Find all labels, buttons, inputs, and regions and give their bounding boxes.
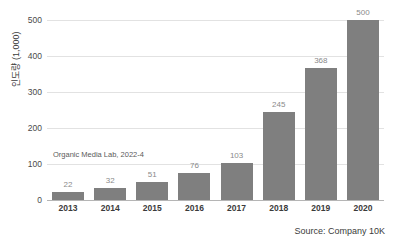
bar-slot-2013: 22 [47, 20, 89, 200]
bar-slot-2016: 76 [173, 20, 215, 200]
bar-value-label-2017: 103 [216, 151, 258, 160]
y-tick-label-300: 300 [8, 87, 42, 97]
bar-value-label-2018: 245 [258, 100, 300, 109]
watermark-annotation: Organic Media Lab, 2022-4 [53, 150, 144, 159]
x-tick-label-2014: 2014 [89, 203, 131, 217]
y-tick-label-500: 500 [8, 15, 42, 25]
bar-slot-2015: 51 [131, 20, 173, 200]
bar-value-label-2020: 500 [342, 8, 384, 17]
x-axis-tick-labels: 20132014201520162017201820192020 [47, 203, 384, 217]
x-tick-label-2016: 2016 [173, 203, 215, 217]
bar-slot-2018: 245 [258, 20, 300, 200]
y-tick-label-200: 200 [8, 123, 42, 133]
bar-2013[interactable] [52, 192, 84, 200]
bar-value-label-2013: 22 [47, 180, 89, 189]
bar-chart: 인도량 (1,000) 0100200300400500 22325176103… [0, 0, 399, 249]
x-tick-label-2015: 2015 [131, 203, 173, 217]
y-tick-label-0: 0 [8, 195, 42, 205]
x-tick-label-2018: 2018 [258, 203, 300, 217]
bar-slot-2017: 103 [216, 20, 258, 200]
x-axis-baseline [47, 200, 384, 201]
bar-2015[interactable] [136, 182, 168, 200]
y-tick-label-100: 100 [8, 159, 42, 169]
plot-area: 0100200300400500 22325176103245368500 [47, 20, 384, 201]
bar-slot-2019: 368 [300, 20, 342, 200]
bar-2016[interactable] [178, 173, 210, 200]
bar-2020[interactable] [347, 20, 379, 200]
x-tick-label-2020: 2020 [342, 203, 384, 217]
source-note: Source: Company 10K [294, 226, 385, 236]
bar-value-label-2014: 32 [89, 176, 131, 185]
bar-value-label-2019: 368 [300, 56, 342, 65]
bar-value-label-2016: 76 [173, 161, 215, 170]
bars-layer: 22325176103245368500 [47, 20, 384, 200]
x-tick-label-2017: 2017 [216, 203, 258, 217]
x-tick-label-2019: 2019 [300, 203, 342, 217]
bar-2018[interactable] [263, 112, 295, 200]
bar-slot-2020: 500 [342, 20, 384, 200]
bar-2014[interactable] [94, 188, 126, 200]
x-tick-label-2013: 2013 [47, 203, 89, 217]
bar-slot-2014: 32 [89, 20, 131, 200]
bar-2017[interactable] [221, 163, 253, 200]
bar-value-label-2015: 51 [131, 170, 173, 179]
y-tick-label-400: 400 [8, 51, 42, 61]
bar-2019[interactable] [305, 68, 337, 200]
